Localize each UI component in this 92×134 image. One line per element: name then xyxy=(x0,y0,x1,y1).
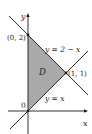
y-axis-arrow-icon xyxy=(26,13,29,17)
point-label-1-1: (1, 1) xyxy=(68,70,87,78)
x-axis-label: x xyxy=(83,119,88,128)
point-0-2 xyxy=(27,34,30,37)
region-label: D xyxy=(38,67,46,77)
line-label-y-equals-x: y = x xyxy=(44,94,65,103)
y-axis-label: y xyxy=(20,12,26,21)
origin-label: 0 xyxy=(21,101,26,110)
line-label-y-equals-2-minus-x: y = 2 − x xyxy=(44,45,81,54)
region-diagram: y x 0 (0, 2) (1, 1) D y = 2 − x y = x xyxy=(0,0,92,134)
point-1-1 xyxy=(65,72,68,75)
origin-point xyxy=(27,110,29,112)
point-label-0-2: (0, 2) xyxy=(7,34,26,42)
x-axis-arrow-icon xyxy=(84,109,88,112)
